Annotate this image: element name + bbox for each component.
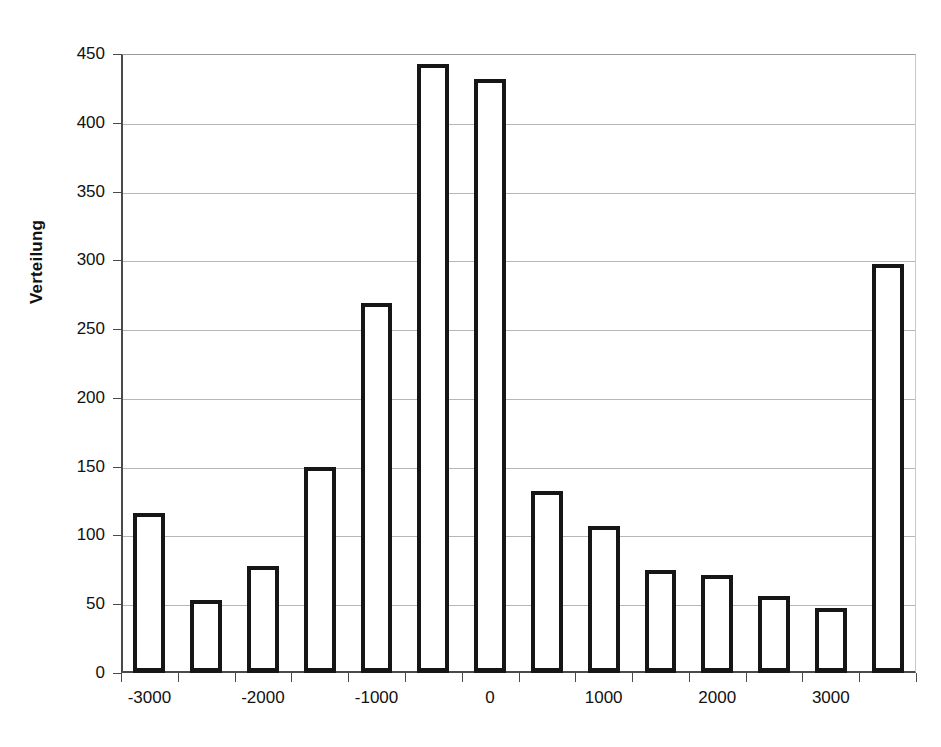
x-tick-mark: [859, 673, 860, 682]
x-tick-label: 2000: [662, 688, 772, 708]
x-tick-mark: [802, 673, 803, 682]
y-tick-label: 350: [45, 183, 105, 200]
x-tick-mark: [916, 673, 917, 682]
y-tick-label: 450: [45, 45, 105, 62]
x-tick-label: -3000: [94, 688, 204, 708]
y-tick-label: 50: [45, 595, 105, 612]
bar: [701, 575, 733, 673]
x-tick-mark: [575, 673, 576, 682]
x-tick-label: -1000: [322, 688, 432, 708]
x-tick-mark: [746, 673, 747, 682]
x-tick-mark: [178, 673, 179, 682]
bar: [133, 513, 165, 673]
bar: [815, 608, 847, 673]
x-tick-mark: [348, 673, 349, 682]
x-tick-mark: [632, 673, 633, 682]
y-tick-label: 150: [45, 458, 105, 475]
x-tick-mark: [462, 673, 463, 682]
bar: [872, 264, 904, 673]
x-tick-label: 0: [435, 688, 545, 708]
histogram-chart: Verteilung 450400350300250200150100500 -…: [0, 0, 941, 747]
bar: [531, 491, 563, 673]
bar: [361, 303, 393, 673]
x-tick-mark: [291, 673, 292, 682]
bar: [645, 570, 677, 673]
bar: [474, 79, 506, 673]
x-tick-mark: [405, 673, 406, 682]
x-tick-mark: [121, 673, 122, 682]
bars-layer: [121, 54, 916, 673]
bar: [758, 596, 790, 673]
x-tick-label: -2000: [208, 688, 318, 708]
bar: [588, 526, 620, 673]
x-tick-label: 3000: [776, 688, 886, 708]
y-tick-label: 250: [45, 320, 105, 337]
bar: [247, 566, 279, 673]
y-tick-label: 300: [45, 251, 105, 268]
x-tick-mark: [519, 673, 520, 682]
y-axis-title: Verteilung: [27, 192, 47, 332]
x-tick-mark: [689, 673, 690, 682]
bar: [417, 64, 449, 673]
y-tick-label: 0: [45, 664, 105, 681]
bar: [304, 467, 336, 673]
y-tick-label: 400: [45, 114, 105, 131]
x-tick-label: 1000: [549, 688, 659, 708]
bar: [190, 600, 222, 673]
x-tick-mark: [235, 673, 236, 682]
y-tick-label: 200: [45, 389, 105, 406]
y-tick-label: 100: [45, 526, 105, 543]
